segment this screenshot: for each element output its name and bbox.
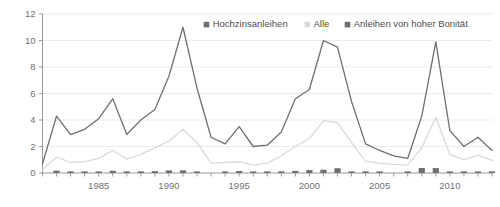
y-tick-label: 12 (25, 8, 36, 19)
x-axis-ticks (43, 173, 493, 177)
y-axis-ticks (39, 14, 43, 173)
chart-container: 024681012 198519901995200020052010 Hochz… (0, 0, 500, 207)
bar (461, 171, 467, 173)
bar (278, 171, 284, 173)
line-series-group (43, 27, 493, 169)
legend-swatch-icon (345, 22, 351, 28)
bar (138, 171, 144, 173)
bar (250, 171, 256, 173)
y-tick-label: 10 (25, 35, 36, 46)
x-tick-label: 2005 (369, 180, 390, 191)
bar (433, 168, 439, 173)
bar (475, 171, 481, 173)
legend-label: Alle (314, 18, 330, 29)
bar (53, 171, 59, 173)
bar (82, 171, 88, 173)
y-tick-label: 6 (30, 88, 35, 99)
bar (236, 171, 242, 173)
x-axis-labels: 198519901995200020052010 (88, 180, 460, 191)
y-tick-label: 0 (30, 167, 35, 178)
bar (405, 171, 411, 173)
plot-area: 024681012 198519901995200020052010 Hochz… (0, 0, 500, 207)
legend-label: Anleihen von hoher Bonität (354, 18, 468, 29)
bar (264, 171, 270, 173)
bar (222, 171, 228, 173)
bar (166, 170, 172, 173)
y-tick-label: 4 (30, 114, 35, 125)
bar-series-anleihen-von-hoher-bonitaet (53, 168, 495, 173)
bar (348, 171, 354, 173)
bar (110, 171, 116, 173)
gridlines (43, 14, 493, 147)
x-tick-label: 1985 (88, 180, 109, 191)
bar (320, 170, 326, 173)
x-tick-label: 2000 (299, 180, 320, 191)
legend-item: Anleihen von hoher Bonität (345, 18, 468, 29)
bar (377, 171, 383, 173)
x-tick-label: 2010 (439, 180, 460, 191)
y-axis-labels: 024681012 (25, 8, 36, 178)
bar (194, 171, 200, 173)
x-tick-label: 1990 (158, 180, 179, 191)
x-tick-label: 1995 (229, 180, 250, 191)
y-tick-label: 2 (30, 141, 35, 152)
bar (447, 171, 453, 173)
bar (489, 171, 495, 173)
chart-svg: 024681012 198519901995200020052010 Hochz… (0, 0, 500, 207)
bar (292, 171, 298, 173)
bar (180, 170, 186, 173)
series-line-alle (43, 117, 493, 169)
bar (334, 168, 340, 173)
bar (124, 171, 130, 173)
legend-label: Hochzinsanleihen (213, 18, 288, 29)
legend-swatch-icon (305, 22, 311, 28)
y-tick-label: 8 (30, 61, 35, 72)
legend-swatch-icon (204, 22, 210, 28)
bar (152, 171, 158, 173)
bar (306, 170, 312, 173)
legend-item: Alle (305, 18, 330, 29)
bar (67, 171, 73, 173)
bar (419, 168, 425, 173)
legend-item: Hochzinsanleihen (204, 18, 288, 29)
chart-legend: HochzinsanleihenAlleAnleihen von hoher B… (204, 18, 468, 29)
bar (96, 171, 102, 173)
bar (362, 171, 368, 173)
